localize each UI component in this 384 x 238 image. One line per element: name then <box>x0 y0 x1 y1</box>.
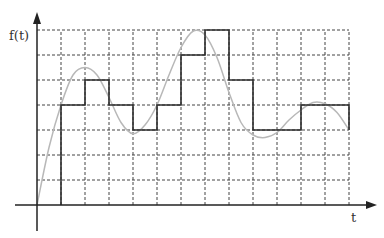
continuous-signal-curve <box>37 30 349 205</box>
axes <box>15 12 377 231</box>
x-axis-arrow-icon <box>366 201 377 209</box>
y-axis-label: f(t) <box>9 28 29 43</box>
grid-lines <box>37 30 349 205</box>
chart: f(t) t <box>0 0 384 238</box>
x-axis-label: t <box>351 210 357 225</box>
y-axis-arrow-icon <box>33 12 41 24</box>
